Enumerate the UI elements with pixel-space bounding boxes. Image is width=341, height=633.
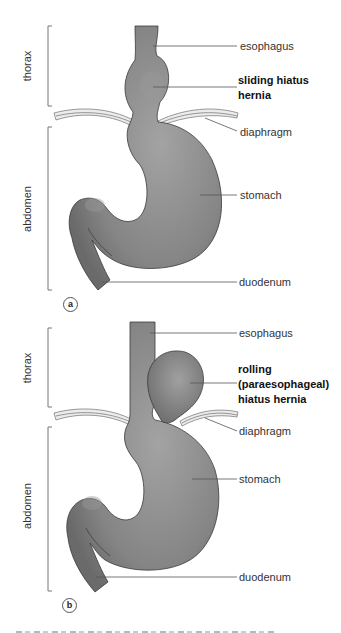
label-duodenum-b: duodenum bbox=[239, 571, 291, 584]
label-rolling-hernia-line1: rolling bbox=[238, 363, 272, 376]
abdomen-bracket-b bbox=[48, 427, 52, 591]
label-diaphragm-a: diaphragm bbox=[240, 126, 292, 139]
thorax-bracket-b bbox=[48, 328, 52, 407]
region-label-thorax-a: thorax bbox=[21, 51, 33, 82]
label-esophagus-b: esophagus bbox=[239, 327, 293, 340]
label-sliding-hernia-line2: hernia bbox=[238, 89, 271, 102]
abdomen-bracket bbox=[48, 127, 52, 290]
panel-badge-b: b bbox=[62, 598, 77, 613]
rolling-hernia-ball bbox=[148, 351, 204, 423]
stomach-a bbox=[69, 26, 221, 290]
thorax-bracket bbox=[48, 26, 52, 106]
region-label-thorax-b: thorax bbox=[21, 353, 33, 384]
label-sliding-hernia-line1: sliding hiatus bbox=[238, 74, 309, 87]
label-duodenum-a: duodenum bbox=[239, 276, 291, 289]
figure-caption-cropped bbox=[16, 629, 276, 633]
region-label-abdomen-b: abdomen bbox=[21, 483, 33, 529]
label-stomach-a: stomach bbox=[240, 189, 282, 202]
region-label-abdomen-a: abdomen bbox=[21, 186, 33, 232]
panel-badge-a: a bbox=[63, 297, 78, 312]
hiatus-hernia-illustration bbox=[0, 0, 341, 633]
label-stomach-b: stomach bbox=[239, 473, 281, 486]
label-diaphragm-b: diaphragm bbox=[239, 425, 291, 438]
label-esophagus-a: esophagus bbox=[240, 40, 294, 53]
label-rolling-hernia-line2: (paraesophageal) bbox=[238, 378, 329, 391]
panel-a-drawing bbox=[48, 26, 238, 290]
label-rolling-hernia-line3: hiatus hernia bbox=[238, 393, 306, 406]
panel-b-drawing bbox=[48, 322, 238, 592]
